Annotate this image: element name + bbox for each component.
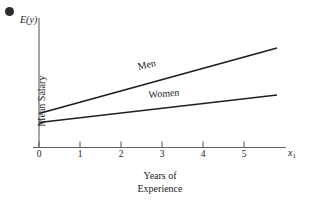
x-tick-label-1: 1	[73, 150, 87, 160]
x-tick-label-2: 2	[114, 150, 128, 160]
x-axis-symbol-subscript: 1	[292, 152, 296, 160]
y-axis-title: Mean Salary	[37, 53, 47, 149]
x-axis-caption-line-1: Years of	[110, 170, 210, 183]
x-axis-symbol: x1	[288, 148, 296, 160]
regression-lines-figure: E(y) x1 Mean Salary 0 1 2 3 4 5 Men Wome…	[0, 0, 311, 203]
x-tick-label-0: 0	[32, 150, 46, 160]
y-axis-symbol: E(y)	[20, 15, 37, 25]
x-axis-ticks	[39, 142, 244, 148]
x-tick-label-3: 3	[155, 150, 169, 160]
x-tick-label-5: 5	[237, 150, 251, 160]
series-line-men	[39, 48, 277, 114]
x-tick-label-4: 4	[196, 150, 210, 160]
x-axis-caption-line-2: Experience	[110, 183, 210, 196]
x-axis-caption: Years of Experience	[110, 170, 210, 195]
